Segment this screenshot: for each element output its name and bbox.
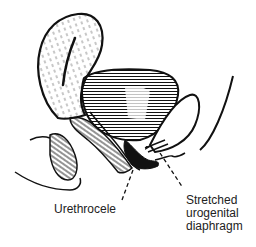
leader-urethrocele — [122, 170, 133, 200]
perineum-line — [155, 153, 185, 160]
abdominal-wall-line — [200, 76, 233, 150]
label-stretched-urogenital-diaphragm: Stretched urogenital diaphragm — [186, 194, 243, 233]
label-urethrocele: Urethrocele — [54, 203, 116, 216]
label-line-3: diaphragm — [186, 220, 243, 233]
rectum — [15, 134, 81, 190]
